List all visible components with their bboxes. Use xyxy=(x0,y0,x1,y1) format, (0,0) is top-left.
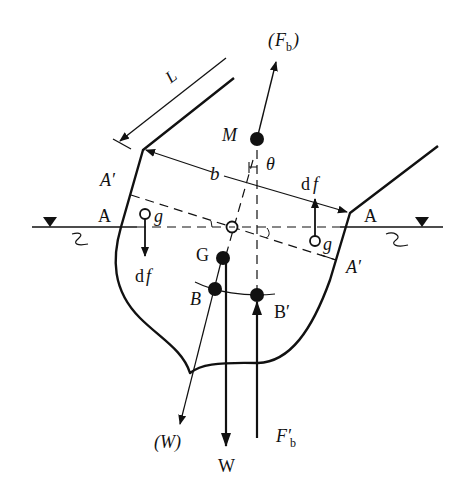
label-A-prime-left: A′ xyxy=(99,170,116,190)
center-of-gravity-point xyxy=(216,251,230,265)
wedge-centroid-left xyxy=(140,209,150,219)
label-df-left-d: d xyxy=(135,266,144,286)
label-W: W xyxy=(218,456,235,476)
buoyancy-force-line xyxy=(257,62,276,139)
label-W-parenthesized: (W) xyxy=(154,432,181,453)
water-squiggle-icon-right xyxy=(386,233,408,246)
label-Fb-prime-sub: b xyxy=(290,436,296,450)
metacenter-point xyxy=(250,132,264,146)
heeled-buoyancy-point xyxy=(250,288,264,302)
label-Fb-parenthesized: ( F b ) xyxy=(268,30,299,54)
label-Fb-sub: b xyxy=(286,40,292,54)
label-M: M xyxy=(221,125,238,145)
label-g-right: g xyxy=(323,234,332,254)
label-A-prime-right: A′ xyxy=(345,257,362,277)
label-B-prime: B′ xyxy=(274,302,290,322)
water-level-triangle-icon-right xyxy=(415,217,429,227)
label-Fb-paren-close: ) xyxy=(292,30,299,51)
theta-angle-mark xyxy=(249,162,257,173)
label-B: B xyxy=(190,289,201,309)
center-of-buoyancy-point xyxy=(208,282,222,296)
label-df-right-d: d xyxy=(301,174,310,194)
label-df-right-f: f xyxy=(313,174,321,194)
water-level-triangle-icon-left xyxy=(43,217,57,227)
label-g-left: g xyxy=(154,206,163,226)
label-b: b xyxy=(210,163,220,184)
label-L: L xyxy=(161,66,181,87)
label-A-right: A xyxy=(364,206,377,226)
wedge-centroid-right xyxy=(310,236,320,246)
label-theta: θ xyxy=(266,154,275,174)
heeled-waterline-tick xyxy=(321,255,336,260)
angle-arc-mark xyxy=(266,228,269,238)
hull-outline xyxy=(116,78,438,373)
label-df-left-f: f xyxy=(146,266,154,286)
label-A-left: A xyxy=(98,206,111,226)
label-Fb-paren-open: ( xyxy=(268,30,275,51)
water-squiggle-icon-left xyxy=(72,233,88,245)
label-Fb-prime: F′ b xyxy=(275,426,296,450)
tilted-axis-dashed xyxy=(226,160,253,255)
ship-stability-diagram: L b θ ( F b ) M g d f g d f A A A′ A′ xyxy=(0,0,460,491)
right-angle-mark-left xyxy=(211,221,212,227)
label-G: G xyxy=(196,245,209,265)
